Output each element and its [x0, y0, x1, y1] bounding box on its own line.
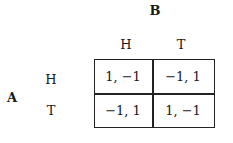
row-strategy-h: H [45, 73, 56, 87]
row-strategy-t: T [47, 104, 56, 118]
column-strategy-t: T [177, 38, 186, 52]
payoff-cell-hh: 1, −1 [105, 70, 141, 84]
payoff-cell-tt: 1, −1 [165, 104, 201, 118]
row-player-label: A [7, 91, 17, 105]
matrix-horizontal-divider [94, 93, 215, 95]
column-player-label: B [150, 4, 161, 18]
column-strategy-h: H [120, 38, 131, 52]
payoff-cell-th: −1, 1 [105, 104, 141, 118]
payoff-cell-ht: −1, 1 [165, 70, 201, 84]
